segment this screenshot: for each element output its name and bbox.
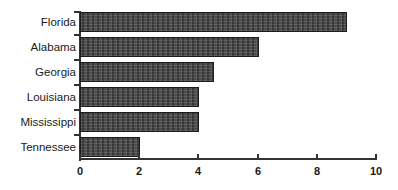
category-label-louisiana: Louisiana bbox=[27, 87, 76, 107]
x-axis-line bbox=[79, 158, 376, 160]
x-axis-tick bbox=[316, 154, 318, 160]
y-axis-tick bbox=[74, 109, 81, 111]
bar-alabama bbox=[80, 37, 259, 57]
y-axis-tick bbox=[74, 84, 81, 86]
bar-mississippi bbox=[80, 112, 199, 132]
x-axis-tick bbox=[138, 154, 140, 160]
x-axis-tick bbox=[257, 154, 259, 160]
x-axis-tick bbox=[197, 154, 199, 160]
x-axis-tick bbox=[79, 154, 81, 160]
y-axis-tick bbox=[74, 59, 81, 61]
category-label-georgia: Georgia bbox=[35, 62, 76, 82]
x-axis-tick-label: 0 bbox=[68, 165, 92, 177]
category-label-mississippi: Mississippi bbox=[20, 112, 76, 132]
y-axis-tick bbox=[74, 134, 81, 136]
bar-georgia bbox=[80, 62, 214, 82]
x-axis-tick-label: 8 bbox=[305, 165, 329, 177]
x-axis-tick-label: 6 bbox=[246, 165, 270, 177]
bar-tennessee bbox=[80, 137, 140, 157]
bar-louisiana bbox=[80, 87, 199, 107]
category-label-tennessee: Tennessee bbox=[20, 137, 76, 157]
x-axis-tick-label: 4 bbox=[186, 165, 210, 177]
category-label-alabama: Alabama bbox=[31, 37, 76, 57]
category-label-florida: Florida bbox=[41, 12, 76, 32]
x-axis-tick-label: 2 bbox=[127, 165, 151, 177]
plot-area: Florida Alabama Georgia Louisiana Missis… bbox=[0, 0, 398, 190]
x-axis-tick-label: 10 bbox=[364, 165, 388, 177]
y-axis-tick bbox=[74, 34, 81, 36]
bar-florida bbox=[80, 12, 347, 32]
x-axis-tick bbox=[375, 154, 377, 160]
bar-chart: Florida Alabama Georgia Louisiana Missis… bbox=[0, 0, 398, 190]
